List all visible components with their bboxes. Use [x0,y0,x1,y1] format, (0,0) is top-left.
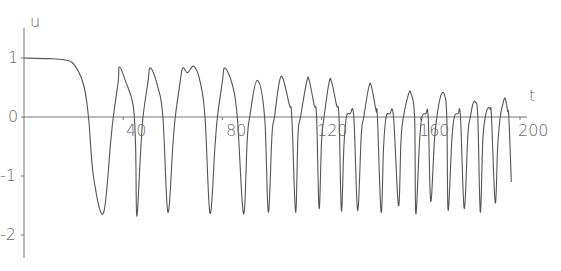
y-tick-label-neg1: -1 [0,168,16,184]
y-tick-label-0: 0 [8,109,18,125]
x-axis-label: t [529,88,535,104]
x-tick-label-120: 120 [317,123,348,139]
y-axis-label: u [30,14,40,30]
y-tick-label-neg2: -2 [0,227,16,243]
x-tick-label-200: 200 [518,123,549,139]
x-tick-label-80: 80 [226,123,246,139]
chart-plot-area [0,0,561,271]
y-tick-label-1: 1 [8,50,18,66]
x-tick-label-160: 160 [419,123,450,139]
x-tick-label-40: 40 [126,123,146,139]
